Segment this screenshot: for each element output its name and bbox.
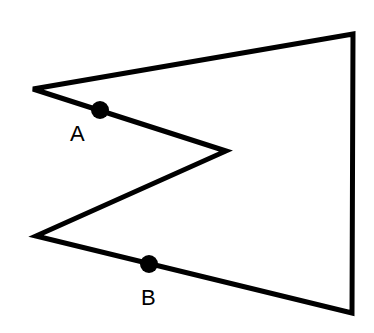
polygon-diagram: A B — [0, 0, 374, 333]
point-a-dot — [91, 101, 109, 119]
point-b-label: B — [141, 285, 156, 310]
point-b-dot — [140, 255, 158, 273]
point-a-label: A — [70, 121, 85, 146]
concave-polygon — [33, 34, 353, 313]
